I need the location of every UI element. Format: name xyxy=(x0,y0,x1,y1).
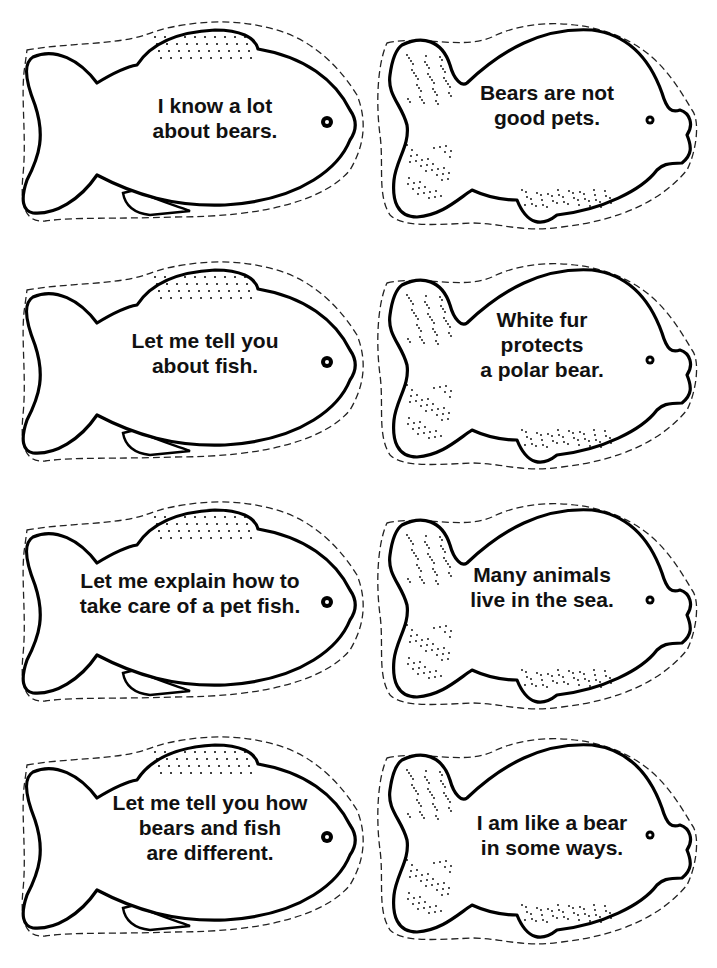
fish-sentence: I know a lot about bears. xyxy=(115,93,315,143)
fish-sentence: Many animals live in the sea. xyxy=(442,562,642,612)
fish-sentence: Let me tell you how bears and fish are d… xyxy=(85,790,335,865)
fish-sentence: Let me tell you about fish. xyxy=(105,328,305,378)
fish-sentence: White fur protects a polar bear. xyxy=(442,307,642,382)
fish-sentence: Bears are not good pets. xyxy=(452,80,642,130)
fish-sentence: I am like a bear in some ways. xyxy=(452,810,652,860)
fish-sentence: Let me explain how to take care of a pet… xyxy=(45,568,335,618)
